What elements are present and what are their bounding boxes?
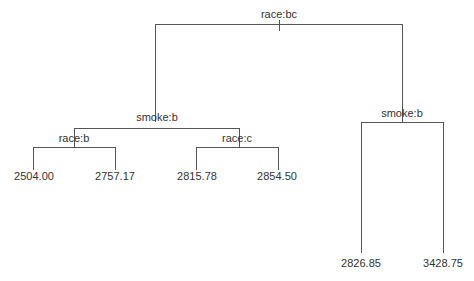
left-smoke-split-label: smoke:b bbox=[136, 111, 178, 123]
leaf-value: 2826.85 bbox=[341, 257, 381, 269]
leaf-value: 2815.78 bbox=[177, 170, 217, 182]
race-b-left-edge bbox=[33, 147, 34, 170]
right-smoke-left-edge bbox=[361, 122, 362, 253]
root-split-label: race:bc bbox=[261, 8, 297, 20]
race-c-branch bbox=[196, 147, 279, 148]
left-smoke-branch bbox=[74, 128, 240, 129]
leaf-value: 3428.75 bbox=[423, 257, 463, 269]
root-stem bbox=[279, 20, 280, 31]
race-b-right-edge bbox=[115, 147, 116, 170]
race-b-split-label: race:b bbox=[59, 132, 90, 144]
right-smoke-right-edge bbox=[443, 122, 444, 253]
root-branch bbox=[155, 24, 403, 25]
right-smoke-split-label: smoke:b bbox=[381, 107, 423, 119]
race-c-left-edge bbox=[196, 147, 197, 170]
leaf-value: 2757.17 bbox=[95, 170, 135, 182]
race-c-split-label: race:c bbox=[222, 132, 252, 144]
leaf-value: 2504.00 bbox=[14, 170, 54, 182]
leaf-value: 2854.50 bbox=[257, 170, 297, 182]
race-c-right-edge bbox=[278, 147, 279, 170]
right-smoke-branch bbox=[361, 122, 444, 123]
root-left-edge bbox=[155, 24, 156, 122]
race-b-branch bbox=[33, 147, 116, 148]
